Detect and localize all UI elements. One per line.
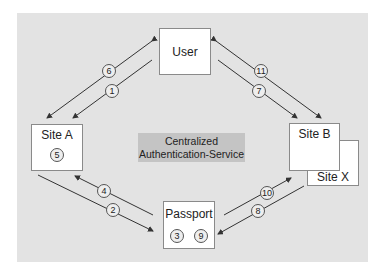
step-11-badge: 11: [254, 64, 268, 78]
step-5-badge: 5: [50, 148, 64, 162]
node-passport-label: Passport: [164, 207, 214, 221]
node-site-x-label: Site X: [308, 170, 358, 184]
center-label-line-1: Centralized: [138, 135, 245, 148]
arrow-2: [38, 175, 153, 231]
node-site-a-label: Site A: [32, 128, 82, 142]
node-user-label: User: [160, 45, 210, 59]
step-8-badge: 8: [251, 204, 265, 218]
step-6-badge: 6: [102, 64, 116, 78]
center-label-line-2: Authentication-Service: [138, 148, 245, 161]
step-3-badge: 3: [170, 229, 184, 243]
step-2-badge: 2: [106, 203, 120, 217]
arrow-6: [47, 41, 152, 118]
node-user: User: [159, 28, 211, 75]
node-site-b-label: Site B: [290, 127, 339, 141]
step-4-badge: 4: [97, 184, 111, 198]
node-site-b: Site B: [289, 123, 340, 171]
node-passport: Passport 3 9: [163, 201, 215, 249]
node-site-a: Site A 5: [31, 124, 83, 171]
step-9-badge: 9: [194, 229, 208, 243]
step-7-badge: 7: [252, 84, 266, 98]
centralized-auth-service-label: Centralized Authentication-Service: [138, 133, 245, 162]
step-1-badge: 1: [105, 84, 119, 98]
arrow-11: [216, 41, 321, 118]
step-10-badge: 10: [260, 186, 274, 200]
